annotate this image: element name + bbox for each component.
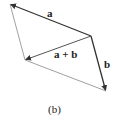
edge-left — [10, 4, 25, 60]
vector-a-label: a — [47, 8, 53, 19]
edge-bottom — [25, 60, 106, 91]
vector-a-plus-b-label: a + b — [54, 49, 77, 60]
vector-b-label: b — [104, 59, 110, 70]
figure-caption: (b) — [48, 104, 61, 115]
